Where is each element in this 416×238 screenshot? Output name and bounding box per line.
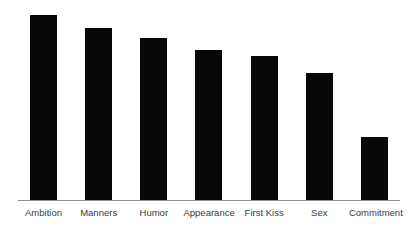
x-axis-label: Manners — [73, 205, 124, 227]
bar — [251, 56, 278, 200]
x-axis-label: Sex — [294, 205, 345, 227]
bar — [30, 15, 57, 200]
bar-slot — [195, 8, 222, 200]
plot-area — [18, 8, 400, 200]
bar — [140, 38, 167, 200]
bar-slot — [306, 8, 333, 200]
bar — [85, 28, 112, 200]
x-axis-label: Appearance — [183, 205, 234, 227]
bar-slot — [140, 8, 167, 200]
x-axis-labels: AmbitionMannersHumorAppearanceFirst Kiss… — [18, 205, 400, 227]
bar-chart: AmbitionMannersHumorAppearanceFirst Kiss… — [0, 0, 416, 238]
bar-series — [18, 8, 400, 200]
bar — [195, 50, 222, 200]
bar-slot — [85, 8, 112, 200]
bar — [306, 73, 333, 200]
x-axis-line — [18, 200, 400, 201]
x-axis-label: Commitment — [349, 205, 400, 227]
bar — [361, 137, 388, 200]
x-axis-label: Ambition — [18, 205, 69, 227]
x-axis-label: First Kiss — [239, 205, 290, 227]
x-axis-label: Humor — [128, 205, 179, 227]
bar-slot — [361, 8, 388, 200]
bar-slot — [251, 8, 278, 200]
bar-slot — [30, 8, 57, 200]
